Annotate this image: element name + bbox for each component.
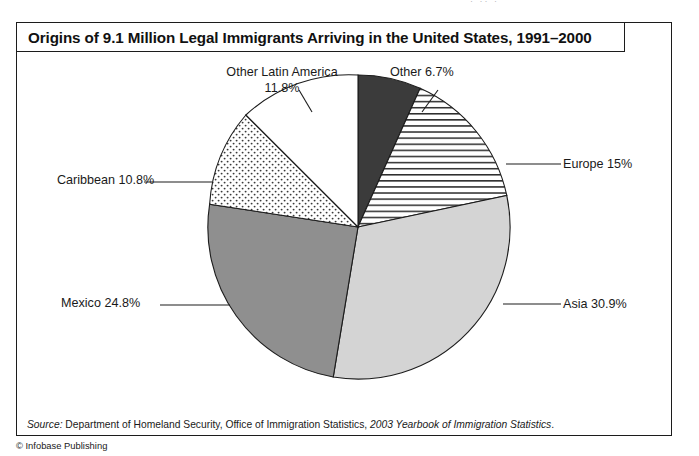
pie-label-other-latin-america-line1: Other Latin America (208, 64, 356, 80)
pie-label-mexico: Mexico 24.8% (61, 295, 140, 311)
copyright-note: © Infobase Publishing (16, 440, 107, 451)
source-publication-title: 2003 Yearbook of Immigration Statistics (370, 419, 551, 430)
pie-chart-svg (16, 52, 672, 407)
source-body: Department of Homeland Security, Office … (63, 419, 371, 430)
source-suffix: . (551, 419, 554, 430)
page-title: Origins of 9.1 Million Legal Immigrants … (28, 29, 592, 46)
pie-label-other: Other 6.7% (390, 64, 454, 80)
pie-slice-mexico (208, 204, 358, 377)
pie-label-europe: Europe 15% (563, 156, 632, 172)
pie-chart-area (16, 52, 672, 407)
scan-artifact-text: · ·· · (470, 0, 630, 6)
pie-label-asia: Asia 30.9% (563, 296, 627, 312)
figure-page: · ·· · Origins of 9.1 Million Legal Immi… (0, 0, 699, 456)
figure-title-box: Origins of 9.1 Million Legal Immigrants … (16, 22, 625, 52)
source-note: Source: Department of Homeland Security,… (27, 419, 554, 430)
source-prefix: Source: (27, 419, 63, 430)
pie-label-other-latin-america-line2: 11.8% (208, 80, 356, 96)
pie-label-caribbean: Caribbean 10.8% (57, 172, 154, 188)
pie-label-other-latin-america: Other Latin America 11.8% (208, 64, 356, 96)
